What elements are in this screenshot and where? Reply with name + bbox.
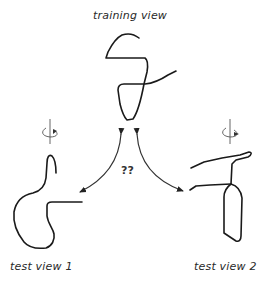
- arrow-test1-training: [80, 134, 121, 192]
- diagram-canvas: [0, 0, 269, 285]
- test-view-1-sketch: [14, 155, 82, 248]
- comparison-arrows: [80, 134, 183, 192]
- test-view-2-sketch: [190, 152, 251, 241]
- training-view-sketch: [106, 34, 176, 120]
- arrow-test2-training: [137, 134, 183, 191]
- rotation-icon-left: [43, 119, 57, 144]
- rotation-icon-right: [223, 119, 239, 144]
